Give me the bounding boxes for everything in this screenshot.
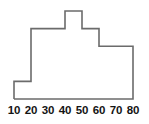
x-axis-tick-labels: 10 20 30 40 50 60 70 80 <box>0 103 149 119</box>
histogram-figure: 10 20 30 40 50 60 70 80 <box>0 0 149 124</box>
x-tick-label-80: 80 <box>123 103 143 117</box>
histogram-outline-path <box>14 11 133 99</box>
